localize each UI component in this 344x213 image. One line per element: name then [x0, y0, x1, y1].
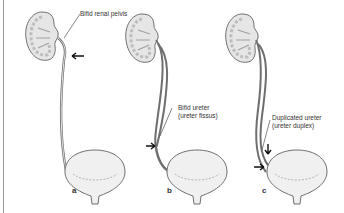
panel-b-bladder	[167, 150, 227, 204]
panel-letter-b: b	[167, 186, 172, 195]
label-bifid-renal-pelvis: Bifid renal pelvis	[80, 10, 127, 18]
panel-letter-c: c	[262, 186, 266, 195]
ureter-anomalies-illustration	[0, 0, 344, 213]
panel-c-kidney	[226, 14, 258, 62]
arrow-icon	[72, 53, 84, 59]
panel-letter-a: a	[72, 186, 76, 195]
arrow-icon	[265, 144, 271, 154]
panel-a-bladder	[65, 150, 125, 204]
panel-b-kidney	[126, 14, 158, 62]
arrow-icon	[146, 143, 155, 149]
panel-a-ureter	[58, 38, 72, 170]
label-duplicated-ureter: Duplicated ureter	[272, 114, 322, 122]
label-ureter-duplex: (ureter duplex)	[272, 122, 314, 130]
label-bifid-ureter: Bifid ureter	[178, 104, 209, 112]
panel-c-bladder	[267, 150, 327, 204]
panel-a-kidney	[26, 12, 58, 60]
label-ureter-fissus: (ureter fissus)	[178, 112, 218, 120]
